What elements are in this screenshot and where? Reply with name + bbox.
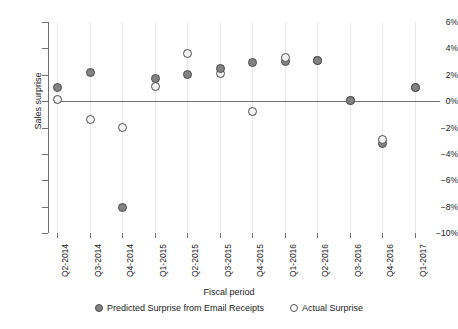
- x-tick-label: Q1-2017: [419, 244, 428, 277]
- chart-legend: Predicted Surprise from Email ReceiptsAc…: [0, 303, 458, 313]
- x-tick-label: Q4-2016: [386, 244, 395, 277]
- y-tick: [42, 207, 48, 208]
- x-tick: [415, 233, 416, 238]
- predicted-point: [346, 96, 355, 105]
- legend-entry: Predicted Surprise from Email Receipts: [95, 303, 264, 313]
- y-tick: [42, 22, 48, 23]
- legend-label: Actual Surprise: [302, 303, 363, 313]
- sales-surprise-scatter-chart: Sales surprise 6%4%2%0%−2%−4%−6%−8%−10% …: [0, 0, 458, 329]
- zero-reference-line: [57, 101, 440, 102]
- gridline: [57, 22, 58, 233]
- open-circle-icon: [290, 304, 298, 312]
- y-axis-line: [48, 22, 49, 233]
- gridline: [155, 22, 156, 233]
- x-tick: [155, 233, 156, 238]
- predicted-point: [151, 74, 160, 83]
- x-tick-label: Q4-2014: [126, 244, 135, 277]
- gridline: [415, 22, 416, 233]
- x-tick: [252, 233, 253, 238]
- actual-point: [183, 49, 192, 58]
- x-axis-title: Fiscal period: [0, 287, 458, 297]
- y-tick: [42, 101, 48, 102]
- plot-area: [57, 22, 440, 233]
- gridline: [252, 22, 253, 233]
- gridline: [350, 22, 351, 233]
- y-tick: [42, 154, 48, 155]
- x-tick-label: Q2-2014: [61, 244, 70, 277]
- y-tick: [42, 75, 48, 76]
- x-tick: [317, 233, 318, 238]
- predicted-point: [313, 56, 322, 65]
- y-tick: [42, 180, 48, 181]
- predicted-point: [118, 203, 127, 212]
- x-tick: [382, 233, 383, 238]
- x-tick: [122, 233, 123, 238]
- x-tick: [57, 233, 58, 238]
- gridline: [317, 22, 318, 233]
- y-tick: [42, 48, 48, 49]
- x-tick-label: Q1-2016: [289, 244, 298, 277]
- y-tick: [42, 128, 48, 129]
- x-tick-label: Q4-2015: [256, 244, 265, 277]
- x-tick-label: Q2-2016: [321, 244, 330, 277]
- actual-point: [248, 107, 257, 116]
- predicted-point: [86, 68, 95, 77]
- x-tick: [285, 233, 286, 238]
- x-tick: [220, 233, 221, 238]
- predicted-point: [216, 64, 225, 73]
- gridline: [220, 22, 221, 233]
- predicted-point: [53, 83, 62, 92]
- x-tick-label: Q3-2014: [94, 244, 103, 277]
- x-tick-label: Q3-2016: [354, 244, 363, 277]
- actual-point: [378, 135, 387, 144]
- predicted-point: [183, 70, 192, 79]
- actual-point: [151, 82, 160, 91]
- gridline: [382, 22, 383, 233]
- predicted-point: [411, 83, 420, 92]
- x-tick-label: Q2-2015: [191, 244, 200, 277]
- predicted-point: [248, 58, 257, 67]
- gridline: [90, 22, 91, 233]
- x-tick-label: Q1-2015: [159, 244, 168, 277]
- actual-point: [118, 123, 127, 132]
- legend-label: Predicted Surprise from Email Receipts: [107, 303, 264, 313]
- actual-point: [86, 115, 95, 124]
- filled-circle-icon: [95, 304, 103, 312]
- x-tick: [350, 233, 351, 238]
- x-tick-label: Q3-2015: [224, 244, 233, 277]
- y-tick: [42, 233, 48, 234]
- legend-entry: Actual Surprise: [290, 303, 363, 313]
- actual-point: [53, 95, 62, 104]
- x-tick: [187, 233, 188, 238]
- x-tick: [90, 233, 91, 238]
